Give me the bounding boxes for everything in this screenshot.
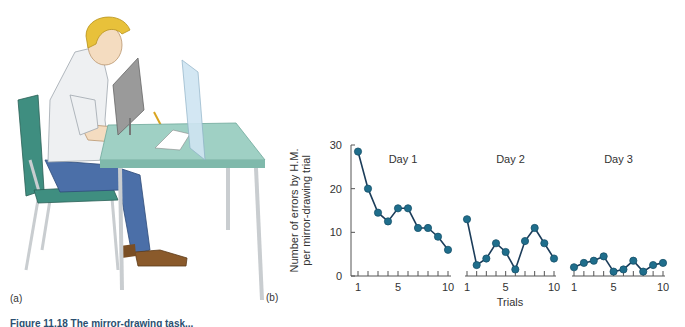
line-chart-svg: 0102030Number of errors by H.M.per mirro… [270,130,685,315]
series-label-day-2: Day 2 [496,153,525,165]
x-axis-label: Trials [497,296,524,308]
y-axis-label: Number of errors by H.M. [288,148,300,272]
data-point [659,259,666,266]
x-tick-label: 1 [464,281,470,293]
x-tick-label: 5 [503,281,509,293]
y-axis-label: per mirror-drawing trial [300,155,312,266]
data-point [374,209,381,216]
data-point [414,224,421,231]
x-tick-label: 1 [355,281,361,293]
data-point [650,261,657,268]
data-point [640,268,647,275]
person-at-table-drawing [0,0,270,310]
data-point [550,255,557,262]
y-tick-label: 30 [330,139,342,151]
data-point [473,261,480,268]
data-point [610,268,617,275]
data-point [424,224,431,231]
data-point [630,257,637,264]
data-point [620,266,627,273]
mirror-drawing-illustration: (a) [0,0,270,310]
errors-per-trial-chart: 0102030Number of errors by H.M.per mirro… [270,130,685,315]
y-tick-label: 20 [330,183,342,195]
x-tick-label: 1 [571,281,577,293]
data-point [531,224,538,231]
series-label-day-1: Day 1 [389,153,418,165]
data-point [590,257,597,264]
data-point [600,253,607,260]
panel-a-label: (a) [10,293,22,304]
data-point [521,237,528,244]
figure-caption: Figure 11.18 The mirror-drawing task... [10,318,670,327]
data-point [354,148,361,155]
x-tick-label: 10 [442,281,454,293]
data-point [492,240,499,247]
data-point [394,205,401,212]
x-tick-label: 5 [395,281,401,293]
data-point [364,185,371,192]
data-point [512,266,519,273]
data-point [483,255,490,262]
data-point [502,248,509,255]
x-tick-label: 5 [610,281,616,293]
x-tick-label: 10 [548,281,560,293]
y-tick-label: 0 [336,270,342,282]
data-point [541,240,548,247]
y-tick-label: 10 [330,226,342,238]
data-point [570,264,577,271]
data-point [404,205,411,212]
x-tick-label: 10 [657,281,669,293]
data-point [384,218,391,225]
series-label-day-3: Day 3 [604,153,633,165]
data-point [434,233,441,240]
panel-b-label: (b) [266,292,278,303]
data-point [444,246,451,253]
data-point [580,259,587,266]
data-point [463,216,470,223]
